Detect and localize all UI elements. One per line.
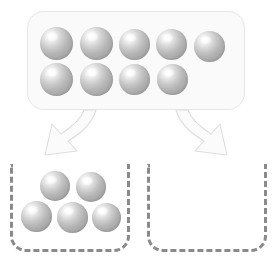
bin-left-sphere-2-icon[interactable] (76, 172, 106, 202)
sphere-1-icon[interactable] (40, 27, 73, 60)
diagram-canvas (0, 0, 280, 267)
arrow-to-left-bin-icon (45, 110, 96, 155)
bin-left-sphere-1-icon[interactable] (40, 171, 70, 201)
bin-left-sphere-3-icon[interactable] (21, 201, 52, 232)
sphere-9-icon[interactable] (157, 64, 188, 95)
bin-left-sphere-4-icon[interactable] (57, 202, 88, 233)
sphere-8-icon[interactable] (119, 64, 150, 95)
sphere-4-icon[interactable] (156, 29, 187, 60)
right-bin[interactable] (147, 164, 267, 252)
sphere-2-icon[interactable] (80, 27, 113, 60)
sphere-7-icon[interactable] (80, 63, 113, 96)
sphere-6-icon[interactable] (40, 63, 73, 96)
sphere-3-icon[interactable] (119, 29, 150, 60)
bin-left-sphere-5-icon[interactable] (92, 203, 121, 232)
arrow-to-right-bin-icon (176, 110, 227, 155)
sphere-5-icon[interactable] (194, 31, 225, 62)
